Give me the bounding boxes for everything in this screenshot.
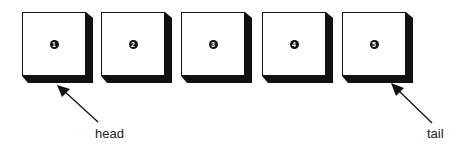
tail-label: tail (427, 126, 444, 141)
node-4: 4 (262, 12, 326, 76)
node-number-badge: 4 (290, 40, 299, 49)
node-1: 1 (22, 12, 86, 76)
node-3: 3 (181, 12, 245, 76)
head-label: head (95, 126, 124, 141)
queue-diagram: 1 2 3 4 5 head tail (0, 0, 463, 147)
node-number-badge: 2 (129, 40, 138, 49)
node-number-badge: 1 (50, 40, 59, 49)
node-number-badge: 5 (370, 40, 379, 49)
node-number-badge: 3 (209, 40, 218, 49)
node-2: 2 (101, 12, 165, 76)
head-arrow (63, 90, 98, 122)
node-5: 5 (342, 12, 406, 76)
tail-arrow (397, 89, 432, 123)
